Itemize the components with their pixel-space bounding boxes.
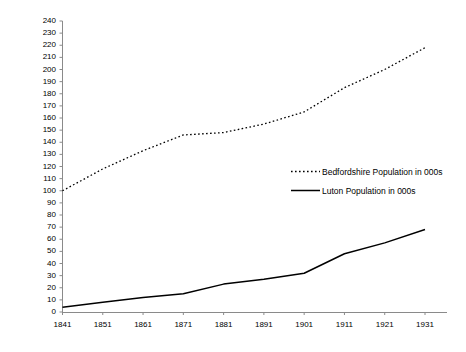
y-axis-tick-label: 200 — [30, 65, 56, 74]
y-axis-tick-label: 110 — [30, 174, 56, 183]
x-axis-tick-label: 1921 — [365, 320, 405, 329]
legend-label-bedfordshire: Bedfordshire Population in 000s — [322, 167, 443, 177]
y-axis-tick-label: 20 — [30, 283, 56, 292]
y-axis-tick-label: 170 — [30, 101, 56, 110]
y-axis-tick-label: 50 — [30, 246, 56, 255]
y-axis-tick-label: 10 — [30, 295, 56, 304]
y-axis-tick-label: 0 — [30, 307, 56, 316]
x-axis-tick-label: 1851 — [83, 320, 123, 329]
x-axis-tick-label: 1841 — [43, 320, 83, 329]
y-axis-tick-label: 190 — [30, 77, 56, 86]
y-axis-tick-label: 230 — [30, 28, 56, 37]
y-axis-tick-label: 80 — [30, 210, 56, 219]
legend-label-luton: Luton Population in 000s — [322, 186, 416, 196]
x-axis-tick-label: 1931 — [405, 320, 445, 329]
y-axis-tick-label: 210 — [30, 52, 56, 61]
y-axis-tick-label: 160 — [30, 113, 56, 122]
x-axis-tick-label: 1861 — [123, 320, 163, 329]
series-line-luton — [63, 230, 426, 308]
y-axis-tick-label: 90 — [30, 198, 56, 207]
x-axis-tick-label: 1881 — [204, 320, 244, 329]
y-axis-tick-label: 140 — [30, 137, 56, 146]
x-axis-tick-label: 1871 — [163, 320, 203, 329]
y-axis-tick-label: 180 — [30, 89, 56, 98]
y-axis-tick-label: 150 — [30, 125, 56, 134]
y-axis-tick-label: 240 — [30, 16, 56, 25]
y-axis-tick-label: 220 — [30, 40, 56, 49]
y-axis-tick-label: 130 — [30, 149, 56, 158]
y-axis-tick-label: 40 — [30, 259, 56, 268]
y-axis-tick-label: 70 — [30, 222, 56, 231]
x-axis-tick-label: 1891 — [244, 320, 284, 329]
population-line-chart: 0102030405060708090100110120130140150160… — [0, 0, 466, 352]
y-axis-tick-label: 120 — [30, 162, 56, 171]
x-axis-tick-label: 1901 — [284, 320, 324, 329]
y-axis-tick-label: 30 — [30, 271, 56, 280]
y-axis-tick-label: 100 — [30, 186, 56, 195]
x-axis-tick-label: 1911 — [324, 320, 364, 329]
y-axis-tick-label: 60 — [30, 234, 56, 243]
